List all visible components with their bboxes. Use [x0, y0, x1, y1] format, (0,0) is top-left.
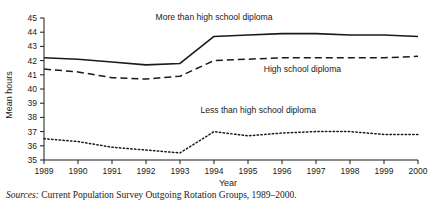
- source-prefix: Sources:: [6, 190, 39, 200]
- y-tick-label: 41: [28, 70, 38, 80]
- x-tick-label: 1997: [307, 166, 326, 176]
- series-label-0: More than high school diploma: [155, 12, 272, 22]
- y-tick-label: 38: [28, 112, 38, 122]
- figure-container: 3536373839404142434445 19891990199119921…: [0, 0, 428, 209]
- y-tick-label: 44: [28, 27, 38, 37]
- x-tick-label: 1992: [137, 166, 156, 176]
- source-note: Sources: Current Population Survey Outgo…: [6, 190, 297, 200]
- x-tick-label: 1989: [35, 166, 54, 176]
- y-tick-label: 35: [28, 155, 38, 165]
- y-tick-label: 39: [28, 98, 38, 108]
- line-chart: 3536373839404142434445 19891990199119921…: [0, 0, 428, 190]
- x-axis: 1989199019911992199319941995199619971998…: [35, 160, 428, 176]
- series-label-2: Less than high school diploma: [200, 105, 316, 115]
- y-tick-label: 37: [28, 127, 38, 137]
- x-tick-label: 1995: [239, 166, 258, 176]
- y-tick-label: 45: [28, 13, 38, 23]
- x-tick-label: 1998: [341, 166, 360, 176]
- series-line-2: [44, 132, 418, 153]
- x-tick-label: 2000: [409, 166, 428, 176]
- y-tick-label: 43: [28, 41, 38, 51]
- series-annotations: More than high school diplomaHigh school…: [155, 12, 341, 115]
- x-tick-label: 1991: [103, 166, 122, 176]
- y-axis: 3536373839404142434445: [28, 13, 44, 165]
- x-axis-title: Year: [219, 178, 237, 188]
- x-tick-label: 1993: [171, 166, 190, 176]
- x-tick-label: 1994: [205, 166, 224, 176]
- y-tick-label: 42: [28, 56, 38, 66]
- y-tick-label: 40: [28, 84, 38, 94]
- y-axis-title: Mean hours: [4, 71, 14, 119]
- x-tick-label: 1999: [375, 166, 394, 176]
- x-tick-label: 1996: [273, 166, 292, 176]
- y-tick-label: 36: [28, 141, 38, 151]
- source-text: Current Population Survey Outgoing Rotat…: [41, 190, 296, 200]
- series-lines: [44, 34, 418, 153]
- series-line-1: [44, 56, 418, 79]
- x-tick-label: 1990: [69, 166, 88, 176]
- series-label-1: High school diploma: [264, 64, 342, 74]
